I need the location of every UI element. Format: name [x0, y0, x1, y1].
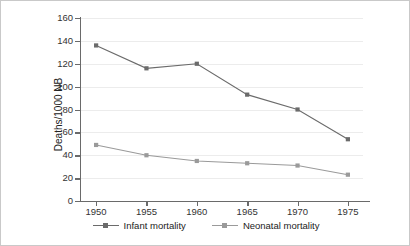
gridline	[81, 41, 363, 42]
legend-marker-icon	[212, 221, 238, 230]
y-tick-mark	[75, 178, 80, 179]
y-tick-mark	[75, 41, 80, 42]
y-tick-label: 160	[43, 13, 73, 23]
gridline	[81, 132, 363, 133]
y-tick-mark	[75, 132, 80, 133]
x-tick-label: 1965	[227, 207, 267, 217]
x-tick-label: 1950	[76, 207, 116, 217]
y-tick-mark	[75, 64, 80, 65]
legend-item-1[interactable]: Infant mortality	[93, 220, 186, 231]
y-tick-mark	[75, 87, 80, 88]
gridline	[81, 64, 363, 65]
y-tick-mark	[75, 110, 80, 111]
y-tick-mark	[75, 155, 80, 156]
plot-area	[81, 18, 363, 201]
gridline	[81, 155, 363, 156]
gridline	[81, 110, 363, 111]
legend-label: Infant mortality	[124, 220, 186, 231]
chart-figure: 160140120100806040200 195019551960196519…	[0, 0, 410, 246]
chart-legend: Infant mortalityNeonatal mortality	[1, 220, 410, 231]
x-tick-label: 1975	[328, 207, 368, 217]
x-tick-label: 1960	[177, 207, 217, 217]
y-tick-mark	[75, 18, 80, 19]
y-axis-label: Deaths/1000 NB	[53, 40, 64, 190]
x-tick-label: 1970	[278, 207, 318, 217]
y-tick-label: 0	[43, 196, 73, 206]
x-axis-line	[80, 201, 370, 202]
y-tick-mark	[75, 201, 80, 202]
gridline	[81, 178, 363, 179]
y-axis-line	[80, 17, 81, 202]
legend-marker-icon	[93, 221, 119, 230]
gridline	[81, 87, 363, 88]
legend-label: Neonatal mortality	[243, 220, 320, 231]
gridline	[81, 18, 363, 19]
legend-item-2[interactable]: Neonatal mortality	[212, 220, 320, 231]
x-tick-label: 1955	[126, 207, 166, 217]
